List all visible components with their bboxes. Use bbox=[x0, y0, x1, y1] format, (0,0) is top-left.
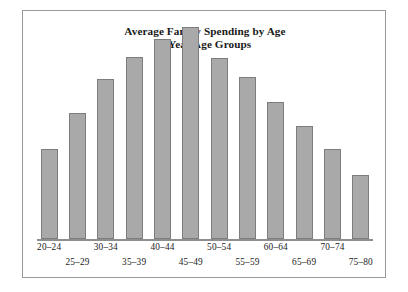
bar bbox=[41, 149, 58, 239]
x-axis-tick-label: 75–80 bbox=[339, 257, 383, 267]
x-axis-line bbox=[37, 239, 373, 241]
x-axis-tick-label: 70–74 bbox=[311, 242, 355, 252]
bar bbox=[126, 57, 143, 239]
bar bbox=[267, 102, 284, 239]
plot-area: 20–2425–2930–3435–3940–4445–4950–5455–59… bbox=[35, 11, 375, 277]
x-axis-tick-labels: 20–2425–2930–3435–3940–4445–4950–5455–59… bbox=[35, 242, 375, 282]
chart-frame: Average Family Spending by Age 5-Year Ag… bbox=[22, 10, 386, 278]
bar bbox=[352, 175, 369, 239]
x-axis-tick-label: 20–24 bbox=[27, 242, 71, 252]
x-axis-tick-label: 60–64 bbox=[254, 242, 298, 252]
bar bbox=[296, 126, 313, 239]
x-axis-tick-label: 45–49 bbox=[169, 257, 213, 267]
x-axis-tick-label: 25–29 bbox=[56, 257, 100, 267]
x-axis-tick-label: 30–34 bbox=[84, 242, 128, 252]
x-axis-tick-label: 65–69 bbox=[282, 257, 326, 267]
bar bbox=[239, 77, 256, 239]
x-axis-tick-label: 35–39 bbox=[112, 257, 156, 267]
bar bbox=[211, 58, 228, 239]
bar bbox=[97, 79, 114, 239]
bar bbox=[154, 39, 171, 239]
x-axis-tick-label: 40–44 bbox=[141, 242, 185, 252]
x-axis-tick-label: 55–59 bbox=[226, 257, 270, 267]
bar bbox=[69, 113, 86, 239]
bar bbox=[324, 149, 341, 239]
x-axis-tick-label: 50–54 bbox=[197, 242, 241, 252]
bar bbox=[182, 27, 199, 239]
chart-figure: Average Family Spending by Age 5-Year Ag… bbox=[0, 0, 408, 292]
bar-series bbox=[35, 11, 375, 239]
